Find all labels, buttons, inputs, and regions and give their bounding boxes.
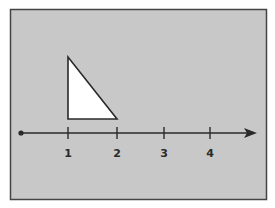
tick-label-1: 1 [64, 147, 72, 160]
tick-label-2: 2 [113, 147, 121, 160]
diagram-frame [11, 10, 267, 200]
tick-label-3: 3 [160, 147, 168, 160]
diagram-canvas: 1 2 3 4 [0, 0, 275, 208]
tick-label-4: 4 [206, 147, 214, 160]
